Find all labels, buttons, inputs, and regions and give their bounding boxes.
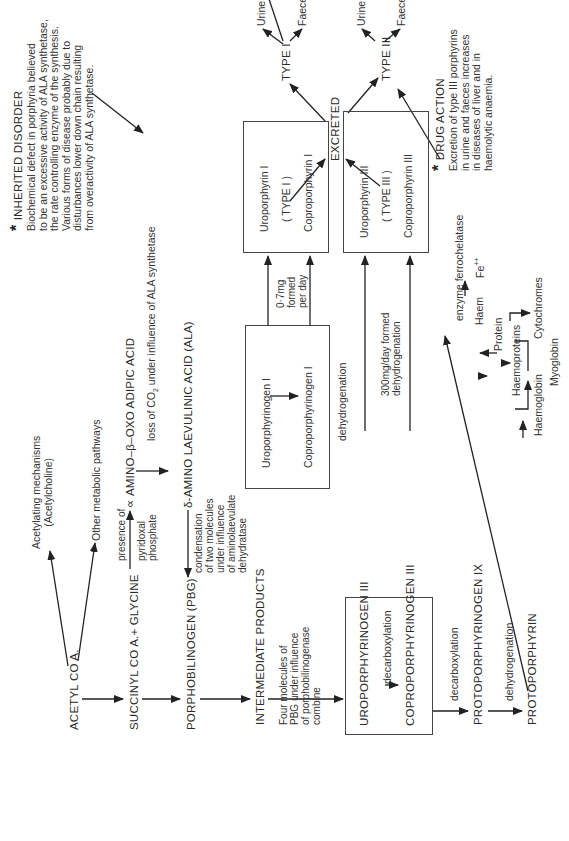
uroporphyrin-3-label: Uroporphyrin III	[358, 166, 370, 238]
coproporphyrin-1-label: Coproporphyrin I	[302, 154, 314, 232]
type1-porphyrinogen-box: Uroporphyrinogen I Coproporphyrinogen I	[245, 325, 330, 489]
drug-action-text: Excretion of type III porphyrins in urin…	[448, 29, 494, 171]
protoporphyrinogen-label: PROTOPORPHYRINOGEN IX	[472, 564, 485, 725]
type1-excretion-label: TYPE I	[280, 43, 293, 81]
type1-formed-note: 0·7mg formed per day	[275, 275, 308, 308]
asterisk-icon: *	[430, 165, 447, 171]
porphyrin-diagram: ACETYL CO A. SUCCINYL CO A.+ GLYCINE POR…	[0, 0, 569, 841]
decarboxylation-box-label: decarboxylation	[381, 610, 393, 684]
other-metabolic-pathways-label: Other metabolic pathways	[90, 420, 102, 541]
type1-porphyrin-box: Uroporphyrin I ( TYPE I ) Coproporphyrin…	[243, 121, 329, 253]
intermediate-products-label: INTERMEDIATE PRODUCTS	[254, 568, 267, 725]
protein-label: Protein	[492, 318, 504, 351]
coproporphyrinogen-3-label: COPROPORPHYRINOGEN III	[404, 564, 417, 726]
condensation-note: condensation of two molecules under infl…	[193, 495, 248, 573]
type3-porphyrin-box: Uroporphyrin III ( TYPE III ) Coproporph…	[343, 111, 429, 253]
decarboxylation-label: decarboxylation	[448, 627, 460, 701]
porphobilinogen-label: PORPHOBILINOGEN (PBG)	[185, 578, 198, 730]
type1-label: ( TYPE I )	[280, 176, 292, 222]
type3-faeces-label: Faeces 150 µg porphyrin/day	[395, 0, 407, 26]
coproporphyrin-3-label: Coproporphyrin III	[402, 154, 414, 238]
cytochromes-label: Cytochromes	[532, 277, 544, 339]
protoporphyrin-label: PROTOPORPHYRIN	[526, 613, 539, 725]
uroporphyrinogen-3-label: UROPORPHYRINOGEN III	[358, 581, 371, 726]
asterisk-icon: *	[8, 225, 25, 231]
delta-ala-label: δ-AMINO LAEVULINIC ACID (ALA)	[182, 321, 195, 508]
drug-action-note: * DRUG ACTION Excretion of type III porp…	[430, 29, 494, 171]
coproporphyrinogen-1-label: Coproporphyrinogen I	[302, 366, 314, 468]
haemoproteins-label: Haemoproteins	[510, 325, 522, 396]
pyridoxal-phosphate-label: pyridoxal phosphate	[136, 514, 158, 561]
uroporphyrin-1-label: Uroporphyrin I	[258, 165, 270, 232]
loss-of-co2-label: loss of CO2 under influence of ALA synth…	[145, 226, 160, 441]
inherited-disorder-title: INHERITED DISORDER	[12, 91, 24, 220]
inherited-disorder-note: * INHERITED DISORDER Biochemical defect …	[8, 19, 95, 231]
excreted-label: EXCRETED	[329, 97, 342, 161]
myoglobin-label: Myoglobin	[548, 338, 560, 386]
alpha-amino-oxo-adipic-acid-label: ∝ AMINO–β–OXO ADIPIC ACID	[124, 338, 137, 508]
inherited-disorder-text: Biochemical defect in porphyria believed…	[26, 19, 95, 231]
four-molecules-note: Four molecules of PBG under influence of…	[278, 627, 322, 725]
type3-formed-note: 300mg/day formed dehydrogenation	[380, 313, 402, 396]
haem-label-visible: Haem	[473, 297, 485, 325]
haemoglobin-label: Haemoglobin	[532, 374, 544, 436]
type3-urine-label: Urine 50 µg porphyrin/day	[355, 0, 367, 26]
enzyme-ferrochelatase-label: enzyme ferrochelatase	[453, 215, 465, 321]
succinyl-coa-glycine-label: SUCCINYL CO A.+ GLYCINE	[128, 574, 141, 730]
acetylating-mechanisms-label: Acetylating mechanisms (Acetylcholine)	[30, 436, 54, 549]
dehydrogenation-label: dehydrogenation	[503, 623, 515, 701]
presence-of-label: presence of	[116, 509, 128, 561]
fe-label: Fe++	[473, 258, 486, 278]
type3-excretion-label: TYPE III	[380, 37, 393, 81]
dehydrogenation-mid-label: dehydrogenation	[336, 363, 348, 441]
uroporphyrinogen-1-label: Uroporphyrinogen I	[260, 378, 272, 468]
type1-urine-label: Urine 100 µg porphyrin/day	[255, 0, 267, 26]
type3-label: ( TYPE III )	[380, 170, 392, 222]
type1-faeces-label: Faeces 600 µg porphyrin/day	[296, 0, 308, 26]
acetyl-coa-label: ACETYL CO A.	[68, 649, 81, 730]
uroporphyrinogen-3-box: UROPORPHYRINOGEN III decarboxylation COP…	[345, 597, 433, 735]
drug-action-title: DRUG ACTION	[434, 78, 446, 160]
